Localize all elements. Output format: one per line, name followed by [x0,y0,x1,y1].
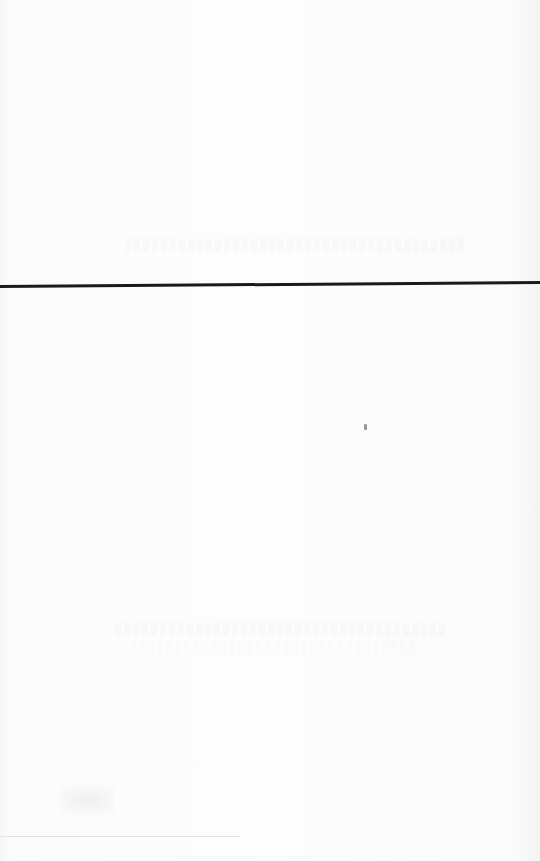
footnote-rule [0,836,240,837]
bleed-through-text-bottom-2 [130,640,420,654]
bleed-through-text-top [125,238,465,252]
page-speck [364,424,367,430]
horizontal-rule [0,281,540,288]
bleed-through-text-bottom [115,622,445,636]
scanned-page [0,0,540,861]
bottom-smudge [60,785,115,815]
